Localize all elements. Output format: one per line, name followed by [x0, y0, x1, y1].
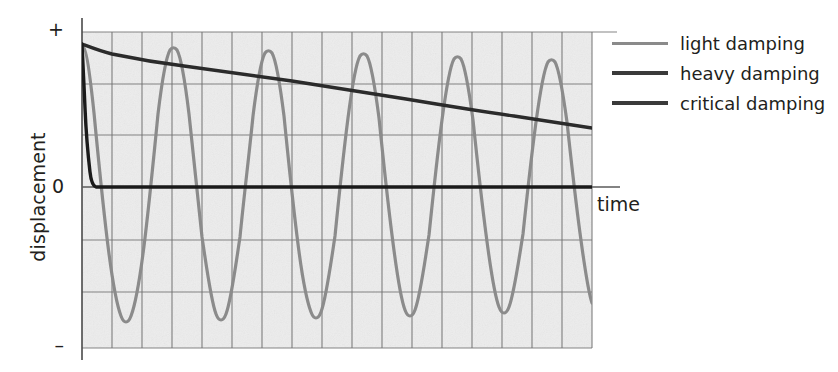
legend-label-heavy-damping: heavy damping [680, 63, 820, 84]
y-tick-negative: – [38, 336, 64, 355]
legend-swatch-light-damping [612, 42, 668, 45]
legend-item-critical-damping: critical damping [612, 88, 838, 118]
y-axis-title: displacement [27, 87, 49, 307]
legend-swatch-heavy-damping [612, 71, 668, 75]
y-tick-positive: + [38, 20, 64, 39]
legend-item-light-damping: light damping [612, 28, 838, 58]
legend-item-heavy-damping: heavy damping [612, 58, 838, 88]
legend-label-critical-damping: critical damping [680, 93, 825, 114]
x-axis-title: time [597, 193, 640, 215]
legend-label-light-damping: light damping [680, 33, 805, 54]
y-tick-zero: 0 [38, 177, 64, 196]
plot-grain-overlay [82, 32, 592, 348]
damping-chart-figure: displacement + 0 – time light damping he… [0, 0, 838, 372]
chart-legend: light damping heavy damping critical dam… [612, 28, 838, 118]
legend-swatch-critical-damping [612, 101, 668, 105]
